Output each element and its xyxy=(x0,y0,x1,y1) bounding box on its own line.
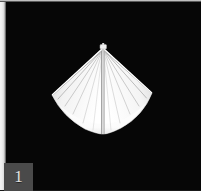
canopy-finial xyxy=(100,43,107,49)
index-badge: 1 xyxy=(4,163,33,191)
canopy-object xyxy=(51,43,153,135)
index-badge-label: 1 xyxy=(14,168,23,186)
image-viewer: 1 xyxy=(0,0,201,191)
canopy-pole xyxy=(101,51,104,134)
frame-top-edge xyxy=(0,0,201,2)
